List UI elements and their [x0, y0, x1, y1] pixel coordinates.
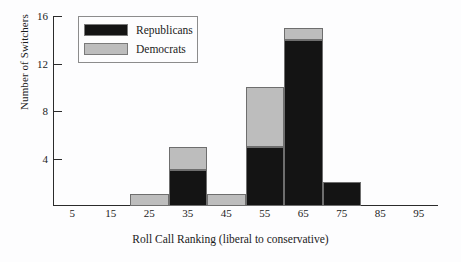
x-axis-tick-label: 25: [144, 207, 155, 219]
bar-segment-democrats: [284, 28, 323, 40]
bar-segment-democrats: [207, 194, 246, 206]
y-axis-tick-label: 16: [37, 10, 48, 22]
bar-segment-republicans: [246, 147, 285, 206]
black-swatch-icon: [84, 24, 128, 36]
gray-swatch-icon: [84, 43, 128, 55]
y-axis-tick-label: 4: [43, 153, 49, 165]
bar-segment-republicans: [323, 182, 362, 206]
x-axis-tick-label: 95: [413, 207, 424, 219]
x-axis-tick-label: 15: [105, 207, 116, 219]
bar-segment-republicans: [284, 40, 323, 206]
bar-bin-50-60: [246, 87, 285, 206]
x-axis-tick-label: 75: [336, 207, 347, 219]
x-axis-tick-label: 35: [182, 207, 193, 219]
bar-bin-70-80: [323, 182, 362, 206]
bar-segment-democrats: [169, 147, 208, 171]
bar-segment-republicans: [169, 170, 208, 206]
y-axis-title: Number of Switchers: [18, 0, 30, 142]
bar-bin-30-40: [169, 147, 208, 206]
legend: Republicans Democrats: [78, 16, 198, 63]
x-axis-tick-label: 45: [221, 207, 232, 219]
bar-segment-democrats: [130, 194, 169, 206]
bar-bin-60-70: [284, 28, 323, 206]
x-axis-tick-label: 5: [70, 207, 76, 219]
histogram-chart: Number of Switchers 16 12 8 4: [0, 0, 461, 262]
x-axis-tick-label: 85: [375, 207, 386, 219]
x-axis-title: Roll Call Ranking (liberal to conservati…: [0, 233, 461, 245]
y-axis-tick-label: 12: [37, 58, 48, 70]
x-axis-tick-label: 65: [298, 207, 309, 219]
y-axis-tick-label: 8: [43, 105, 49, 117]
bar-bin-20-30: [130, 194, 169, 206]
bar-segment-democrats: [246, 87, 285, 146]
bar-bin-40-50: [207, 194, 246, 206]
legend-item-republicans: Republicans: [84, 22, 191, 38]
legend-item-democrats: Democrats: [84, 41, 191, 57]
legend-label: Republicans: [136, 24, 193, 36]
x-axis-tick-label: 55: [259, 207, 270, 219]
legend-label: Democrats: [136, 43, 186, 55]
